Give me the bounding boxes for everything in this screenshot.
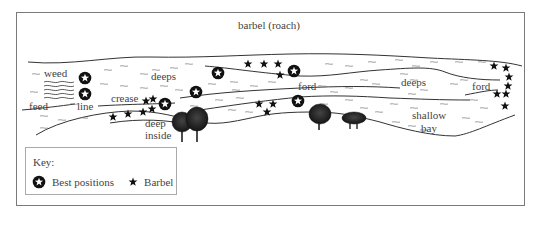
label-deeps-left: deeps	[151, 71, 176, 82]
star-icon	[490, 61, 499, 69]
trees	[172, 104, 366, 142]
star-icon	[139, 107, 148, 115]
star-icon	[276, 70, 285, 78]
tree-icon	[342, 112, 366, 129]
circled-star-icon	[79, 72, 92, 85]
star-icon	[502, 63, 511, 71]
circled-star-icon	[190, 86, 203, 99]
star-icon	[255, 99, 264, 107]
legend-row: Best positions Barbel	[32, 175, 173, 189]
label-weed: weed	[44, 68, 67, 79]
star-icon	[244, 59, 253, 67]
label-crease: crease	[111, 93, 138, 104]
star-icon	[505, 72, 514, 80]
label-deep-inside-2: inside	[145, 130, 171, 141]
circled-star-icon	[159, 98, 172, 111]
circled-star-icon	[292, 95, 305, 108]
circled-star-icon	[32, 175, 46, 189]
tree-icon	[309, 104, 331, 130]
label-deeps-right: deeps	[401, 77, 426, 88]
label-feed: feed	[29, 101, 48, 112]
star-icon	[109, 112, 118, 120]
star-icon	[501, 101, 510, 109]
legend-label-best-positions: Best positions	[52, 176, 114, 188]
label-shallow-bay-2: bay	[421, 123, 437, 134]
label-deep-inside-1: deep	[145, 118, 166, 129]
star-icon	[274, 59, 283, 67]
star-icon	[260, 59, 269, 67]
star-icon	[149, 94, 158, 102]
label-ford-middle: ford	[298, 81, 316, 92]
river-banks	[22, 54, 522, 136]
star-icon	[128, 177, 138, 187]
circled-star-icon	[288, 65, 301, 78]
star-icon	[502, 89, 511, 97]
tree-icon	[172, 107, 208, 142]
star-icon	[504, 81, 513, 89]
label-ford-right: ford	[472, 81, 490, 92]
circled-star-icon	[212, 67, 225, 80]
legend: Key: Best positions Barbel	[25, 147, 177, 195]
legend-label-barbel: Barbel	[144, 176, 173, 188]
label-shallow-bay-1: shallow	[412, 110, 446, 121]
legend-title: Key:	[33, 156, 54, 168]
weed-lines	[44, 81, 74, 98]
label-line: line	[77, 101, 94, 112]
circled-star-icon	[79, 88, 92, 101]
